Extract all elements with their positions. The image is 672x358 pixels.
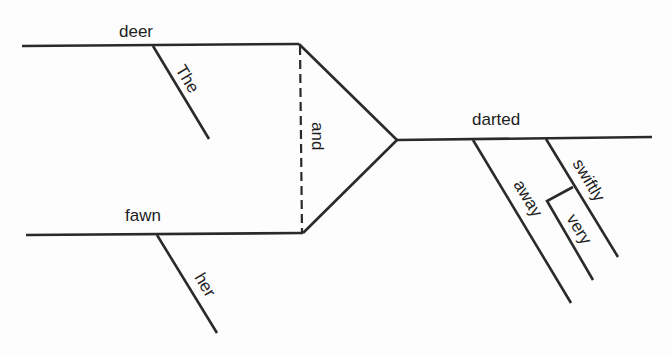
sentence-diagram: deer The and fawn her darted away swiftl… xyxy=(0,0,672,358)
word-darted: darted xyxy=(472,111,520,128)
word-deer: deer xyxy=(119,23,153,40)
subject-deer-baseline xyxy=(22,44,299,46)
modifier-the-line xyxy=(153,46,209,139)
modifier-away-line xyxy=(473,140,571,303)
subject-fawn-baseline xyxy=(26,233,303,235)
word-and: and xyxy=(309,122,326,150)
conjunction-dashed-line xyxy=(300,46,302,232)
diagram-lines xyxy=(0,0,672,358)
verb-darted-baseline xyxy=(397,137,652,140)
fork-lower-line xyxy=(303,140,397,233)
word-fawn: fawn xyxy=(125,207,161,224)
